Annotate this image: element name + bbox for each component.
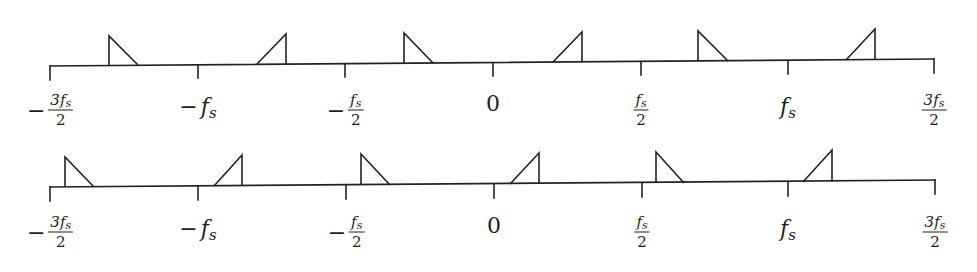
symbol-subscript: s [788,226,796,244]
fraction-numerator: fs [633,93,648,111]
numerator-subscript: s [65,219,71,232]
top-tick-label: fs 2 [633,93,648,128]
rising-triangle-spectrum [257,34,286,64]
falling-triangle-spectrum [404,33,433,63]
bottom-frequency-axis [50,180,935,187]
rising-triangle-spectrum [510,153,539,184]
top-tick-label: −fs [179,94,216,119]
falling-triangle-spectrum [65,157,94,187]
numerator-subscript: s [939,97,945,110]
fraction: 3fs 2 [48,93,73,128]
minus-sign: − [328,220,346,245]
bottom-tick-label: − fs 2 [328,215,365,250]
bottom-tick-label: fs 2 [634,215,649,250]
numerator-coefficient: 3 [50,213,60,231]
fraction: 3fs 2 [922,93,947,128]
top-tick-label: 3fs 2 [922,93,947,128]
numerator-subscript: s [356,97,362,110]
falling-triangle-spectrum [698,31,728,61]
numerator-variable: f [60,91,66,109]
rising-triangle-spectrum [214,155,242,186]
minus-sign: − [27,220,45,245]
numerator-subscript: s [641,97,647,110]
symbol-subscript: s [788,104,796,122]
minus-sign: − [327,98,345,123]
fraction-denominator: 2 [929,111,939,128]
numerator-subscript: s [642,219,648,232]
fraction-denominator: 2 [56,233,66,250]
fraction: fs 2 [634,215,649,250]
minus-sign: − [179,94,197,119]
fraction-numerator: fs [348,93,363,111]
rising-triangle-spectrum [846,29,875,60]
fraction-denominator: 2 [636,111,646,128]
top-tick-label: 0 [486,91,500,116]
bottom-tick-label: 3fs 2 [923,215,948,250]
falling-triangle-spectrum [361,154,390,185]
fraction-numerator: fs [634,215,649,233]
symbol-variable: f [201,94,209,119]
fraction-numerator: 3fs [48,215,73,233]
minus-sign: − [179,216,197,241]
numerator-subscript: s [940,219,946,232]
falling-triangle-spectrum [109,36,138,65]
symbol: fs [780,216,796,241]
symbol-variable: f [201,216,209,241]
bottom-tick-label: −fs [179,216,216,241]
fraction-denominator: 2 [352,233,362,250]
fraction-denominator: 2 [637,233,647,250]
numerator-variable: f [635,91,641,109]
symbol-variable: f [780,216,788,241]
fraction: fs 2 [633,93,648,128]
fraction-denominator: 2 [351,111,361,128]
symbol-subscript: s [209,226,217,244]
top-frequency-axis [50,59,934,66]
falling-triangle-spectrum [656,152,684,183]
symbol: fs [201,216,217,241]
spectrum-diagram: − 3fs 2 −fs− fs 2 0 fs 2 fs 3fs 2 − 3fs … [0,0,977,272]
symbol: fs [201,94,217,119]
fraction: fs 2 [348,93,363,128]
fraction-denominator: 2 [56,111,66,128]
numerator-variable: f [636,213,642,231]
fraction: fs 2 [349,215,364,250]
fraction-denominator: 2 [930,233,940,250]
zero-label: 0 [487,213,501,238]
top-spectrum [50,29,934,80]
numerator-subscript: s [357,219,363,232]
bottom-spectrum [50,150,935,201]
numerator-subscript: s [65,97,71,110]
numerator-coefficient: 3 [925,213,935,231]
symbol: fs [780,94,796,119]
zero-label: 0 [486,91,500,116]
fraction-numerator: 3fs [923,215,948,233]
fraction-numerator: 3fs [922,93,947,111]
top-tick-label: − fs 2 [327,93,364,128]
top-tick-label: fs [780,94,796,119]
top-tick-label: − 3fs 2 [27,93,73,128]
bottom-tick-label: 0 [487,213,501,238]
bottom-tick-label: − 3fs 2 [27,215,73,250]
symbol-variable: f [780,94,788,119]
symbol-subscript: s [209,104,217,122]
fraction-numerator: fs [349,215,364,233]
numerator-coefficient: 3 [924,91,934,109]
minus-sign: − [27,98,45,123]
fraction: 3fs 2 [923,215,948,250]
fraction: 3fs 2 [48,215,73,250]
bottom-tick-label: fs [780,216,796,241]
numerator-variable: f [60,213,66,231]
numerator-coefficient: 3 [50,91,60,109]
fraction-numerator: 3fs [48,93,73,111]
rising-triangle-spectrum [553,32,582,62]
rising-triangle-spectrum [803,150,832,182]
